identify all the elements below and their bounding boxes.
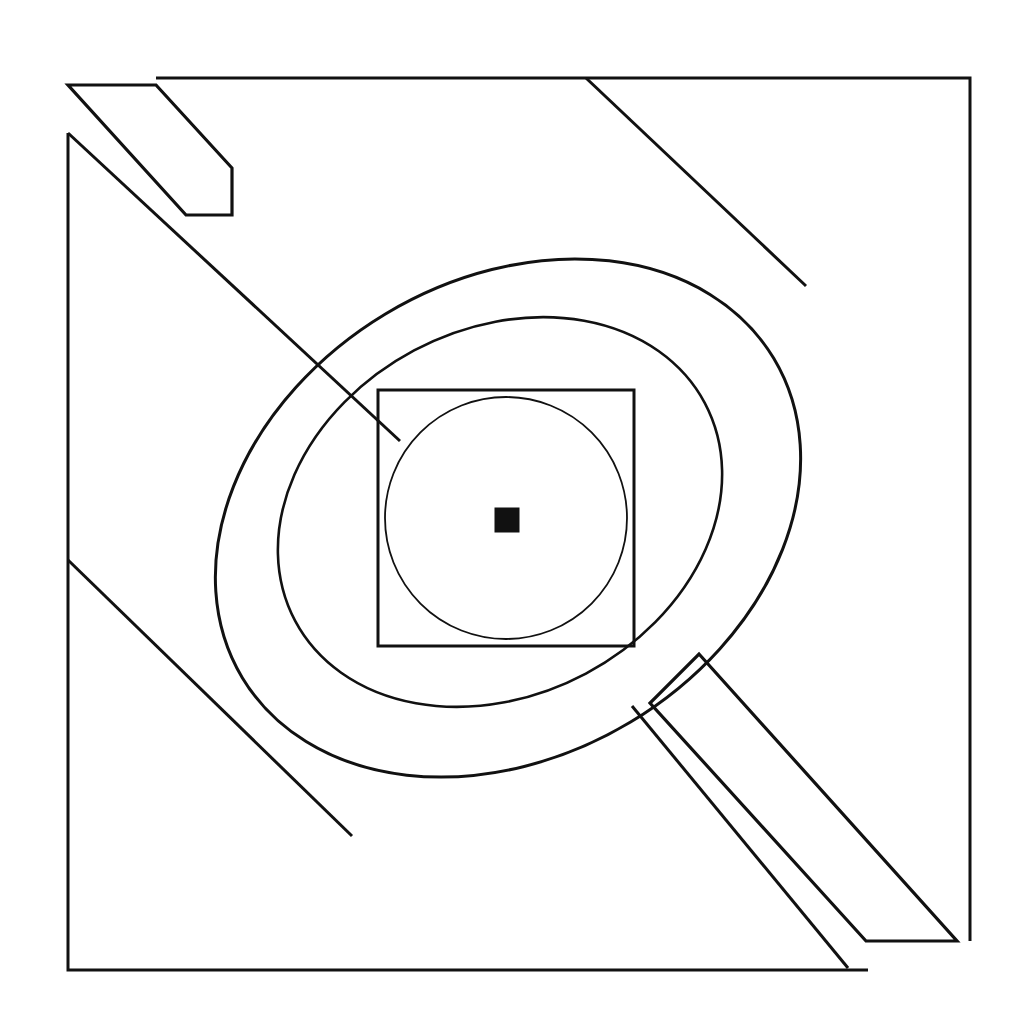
- center-black-square: [495, 508, 520, 533]
- geometric-line-drawing: [0, 0, 1023, 1019]
- figure-canvas: [0, 0, 1023, 1019]
